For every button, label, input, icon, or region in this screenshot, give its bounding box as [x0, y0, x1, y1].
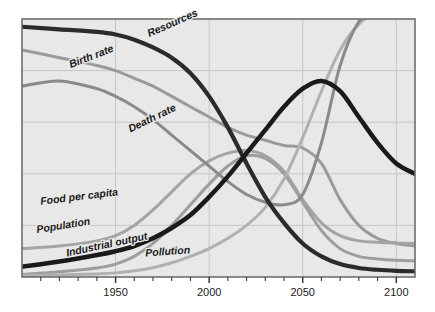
- world3-limits-to-growth-chart: ResourcesBirth rateDeath rateFood per ca…: [0, 0, 435, 312]
- x-tick-label: 1950: [103, 286, 127, 298]
- chart-page: ResourcesBirth rateDeath rateFood per ca…: [0, 0, 435, 312]
- x-tick-label: 2000: [197, 286, 221, 298]
- x-tick-label: 2100: [384, 286, 408, 298]
- x-tick-label: 2050: [290, 286, 314, 298]
